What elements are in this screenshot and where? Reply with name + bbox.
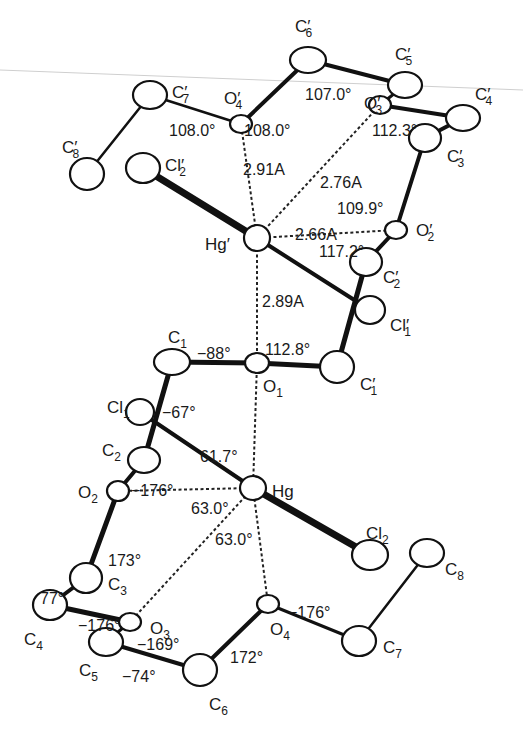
atom-O3 xyxy=(119,613,141,631)
measurement-label: 108.0° xyxy=(169,122,215,139)
atom-C8 xyxy=(410,539,444,567)
atom-C7 xyxy=(342,626,376,656)
atom-label-C6p: C′6 xyxy=(295,17,312,40)
atom-label-C4: C4 xyxy=(24,630,43,653)
atom-C1 xyxy=(154,349,190,375)
atom-label-Hgp: Hg′ xyxy=(205,235,230,254)
molecular-diagram: C′6C′5C′7O′4O′3C′4C′3C′8Cl′2Hg′O′2C′2Cl′… xyxy=(0,0,523,740)
atom-O4 xyxy=(257,595,279,613)
atom-label-Hg: Hg xyxy=(272,482,294,501)
atom-label-C2p: C′2 xyxy=(383,268,400,291)
measurement-label: −67° xyxy=(162,404,196,421)
atom-C5p xyxy=(388,72,422,98)
atom-C4p xyxy=(446,105,480,131)
atom-C2 xyxy=(128,447,160,473)
atom-label-C5p: C′5 xyxy=(395,45,412,68)
atom-Cl1 xyxy=(126,399,154,425)
atom-label-C3p: C′3 xyxy=(447,147,464,170)
atom-label-C7: C7 xyxy=(383,638,402,661)
measurement-label: 63.0° xyxy=(191,500,229,517)
measurement-label: −88° xyxy=(197,345,231,362)
atom-label-C6: C6 xyxy=(209,695,228,718)
atom-label-O4: O4 xyxy=(270,620,290,643)
measurement-label: −176° xyxy=(131,482,173,499)
atom-C7p xyxy=(133,81,167,109)
atom-C1p xyxy=(320,351,354,383)
measurement-label: 2.66A xyxy=(295,226,337,243)
atom-label-C1p: C′1 xyxy=(360,375,377,398)
contact-Hg-O4 xyxy=(253,488,268,604)
measurement-label: −74° xyxy=(122,668,156,685)
atom-C8p xyxy=(70,158,104,190)
bond-Hg-Cl2 xyxy=(253,488,370,555)
atom-C6p xyxy=(290,47,326,73)
scan-artifact-line xyxy=(0,70,523,90)
measurement-label: −169° xyxy=(137,636,179,653)
atom-label-C3: C3 xyxy=(108,575,127,598)
measurement-label: 173° xyxy=(108,552,141,569)
measurement-label: 63.0° xyxy=(215,531,253,548)
atom-label-Cl1p: Cl′1 xyxy=(390,316,411,339)
measurement-label: 2.76A xyxy=(320,174,362,191)
atom-label-C2: C2 xyxy=(102,441,121,464)
atom-label-Cl2p: Cl′2 xyxy=(165,156,186,179)
atom-Hgp xyxy=(244,225,270,251)
atom-label-Cl1: Cl1 xyxy=(107,398,130,421)
atom-label-C1: C1 xyxy=(168,328,187,351)
measurement-label: 112.8° xyxy=(265,341,310,358)
atom-C3 xyxy=(70,563,102,593)
measurement-label: 77° xyxy=(40,590,64,607)
atom-label-C8: C8 xyxy=(445,560,464,583)
measurement-label: −176° xyxy=(288,604,330,621)
atom-Cl1p xyxy=(355,296,385,324)
measurement-label: 109.9° xyxy=(337,200,383,217)
contact-Hg-O1 xyxy=(253,363,257,488)
atom-label-O2p: O′2 xyxy=(416,221,434,244)
measurement-label: 2.89A xyxy=(262,293,304,310)
atom-label-O3p: O′3 xyxy=(364,94,382,117)
atom-Cl2p xyxy=(126,153,160,183)
atom-label-C4p: C′4 xyxy=(475,85,492,108)
measurement-label: 2.91A xyxy=(243,161,285,178)
atom-O2 xyxy=(107,481,129,501)
atom-label-O2: O2 xyxy=(78,483,98,506)
atom-label-O4p: O′4 xyxy=(224,89,242,112)
bond-Cl2p-Hgp xyxy=(143,168,257,238)
atom-label-O1: O1 xyxy=(263,377,283,400)
measurement-label: 107.0° xyxy=(305,86,351,103)
contact-Hgp-O4p xyxy=(241,124,257,238)
atom-label-C8p: C′8 xyxy=(62,138,79,161)
measurement-label: 112.3° xyxy=(372,122,417,139)
measurement-label: 61.7° xyxy=(200,448,238,465)
measurement-label: −176° xyxy=(78,617,120,634)
measurement-label: 117.2° xyxy=(319,243,364,260)
atom-C6 xyxy=(183,654,217,686)
atom-label-C5: C5 xyxy=(79,661,98,684)
measurement-label: 108.0° xyxy=(244,122,290,139)
measurement-label: 172° xyxy=(230,649,263,666)
structure-svg: C′6C′5C′7O′4O′3C′4C′3C′8Cl′2Hg′O′2C′2Cl′… xyxy=(0,0,523,740)
atom-Hg xyxy=(240,476,266,500)
atom-O2p xyxy=(385,221,407,239)
